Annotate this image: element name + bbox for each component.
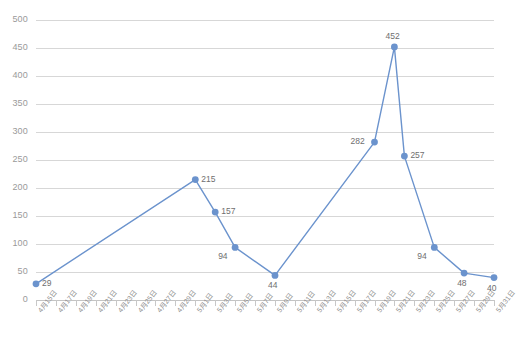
data-point-label: 94 [218, 251, 227, 261]
data-point-label: 40 [487, 283, 496, 293]
data-point-label: 452 [385, 31, 399, 41]
data-point-label: 94 [417, 251, 426, 261]
data-point-marker[interactable] [401, 153, 408, 160]
data-point-marker[interactable] [431, 244, 438, 251]
data-point-marker[interactable] [272, 272, 279, 279]
data-point-label: 44 [268, 280, 277, 290]
data-point-label: 215 [201, 174, 215, 184]
data-point-label: 29 [42, 278, 51, 288]
data-point-label: 157 [221, 206, 235, 216]
data-point-marker[interactable] [491, 274, 498, 281]
data-point-marker[interactable] [212, 209, 219, 216]
data-point-label: 48 [457, 278, 466, 288]
data-point-label: 282 [351, 136, 365, 146]
data-point-marker[interactable] [461, 270, 468, 277]
data-point-marker[interactable] [192, 176, 199, 183]
series-polyline [36, 47, 494, 284]
data-point-label: 257 [410, 150, 424, 160]
data-point-marker[interactable] [371, 139, 378, 146]
data-point-marker[interactable] [232, 244, 239, 251]
data-point-marker[interactable] [391, 44, 398, 51]
data-point-marker[interactable] [33, 280, 40, 287]
chart-caption [0, 344, 504, 352]
